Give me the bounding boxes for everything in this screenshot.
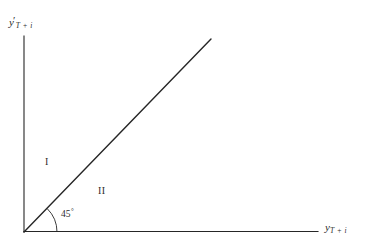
angle-label-value: 45 — [61, 209, 71, 219]
horizontal-axis-label-subscript: T + i — [330, 226, 347, 235]
forecast-45-degree-diagram: y′T + i yT + i I II 45° — [0, 0, 365, 252]
angle-arc — [47, 209, 57, 232]
region-label-one: I — [45, 157, 49, 167]
vertical-axis-label-subscript: T + i — [16, 21, 33, 30]
horizontal-axis-label: yT + i — [325, 222, 347, 235]
forty-five-degree-line — [24, 39, 211, 232]
region-label-two: II — [98, 186, 106, 196]
angle-label: 45° — [61, 208, 74, 219]
vertical-axis-label: y′T + i — [9, 15, 33, 30]
diagram-canvas — [0, 0, 365, 252]
degree-symbol: ° — [71, 207, 74, 215]
